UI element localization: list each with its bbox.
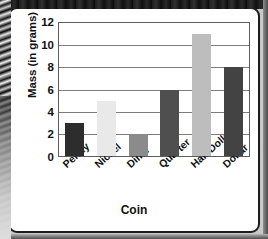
bar-dime [129, 134, 148, 156]
bar-slot-dollar [217, 23, 249, 156]
bar-chart-figure: Mass (in grams) 12 10 8 6 4 2 0 [8, 7, 260, 233]
x-axis-tick-labels: Penny Nickel Dime Quarter Half Dollar Do… [58, 157, 250, 205]
bar-slot-half-dollar [186, 23, 218, 156]
bar-nickel [97, 101, 116, 156]
plot-area [58, 22, 250, 157]
bar-slot-penny [59, 23, 91, 156]
bar-half-dollar [192, 34, 211, 156]
screenshot-root: Mass (in grams) 12 10 8 6 4 2 0 [0, 0, 268, 239]
bar-slot-quarter [154, 23, 186, 156]
bar-series [59, 23, 249, 156]
y-tick-label: 2 [8, 128, 54, 140]
y-tick-label: 8 [8, 61, 54, 73]
scan-artifact-bottom-edge [0, 234, 268, 239]
y-tick-label: 0 [8, 151, 54, 163]
y-axis-tick-labels: 12 10 8 6 4 2 0 [8, 22, 54, 157]
scan-artifact-right-edge [263, 0, 268, 239]
y-tick-label: 10 [8, 39, 54, 51]
y-tick-label: 12 [8, 16, 54, 28]
y-tick-label: 4 [8, 106, 54, 118]
x-axis-title: Coin [8, 203, 260, 217]
bar-slot-dime [122, 23, 154, 156]
bar-dollar [224, 67, 243, 156]
y-tick-label: 6 [8, 84, 54, 96]
bar-slot-nickel [91, 23, 123, 156]
bar-quarter [160, 90, 179, 157]
bar-penny [65, 123, 84, 156]
